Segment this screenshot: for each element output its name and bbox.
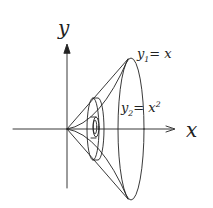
x-axis-label: x <box>186 120 197 140</box>
washer-inner-hole-2 <box>93 120 97 134</box>
curve-y1-lower <box>67 129 128 199</box>
y-axis-label: y <box>58 18 69 38</box>
washer-inner-hole <box>93 117 99 137</box>
curve-y2-label: y2= x2 <box>121 101 161 118</box>
y-axis-arrow-icon <box>64 44 70 53</box>
curve-y1-label: y1= x <box>137 47 172 63</box>
solid-of-revolution-diagram: y x y1= x y2= x2 <box>0 0 213 208</box>
diagram-svg <box>0 0 213 208</box>
